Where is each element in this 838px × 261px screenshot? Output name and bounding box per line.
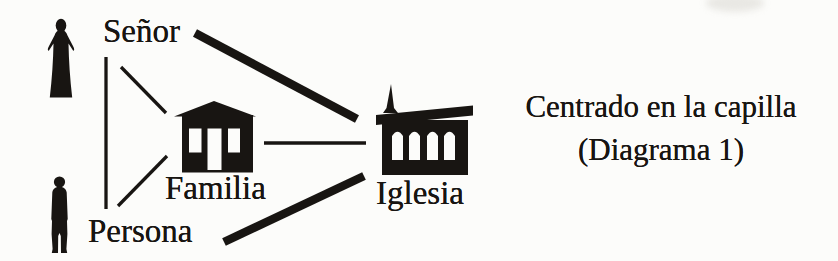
edge-persona-familia (118, 156, 167, 206)
standing-person-icon (44, 176, 75, 256)
persona-label: Persona (88, 215, 192, 248)
senor-label: Señor (103, 15, 180, 48)
caption: Centrado en la capilla (Diagrama 1) (510, 85, 812, 171)
church-icon (371, 84, 474, 178)
iglesia-label: Iglesia (376, 177, 464, 210)
familia-label: Familia (165, 172, 266, 205)
caption-subtitle: (Diagrama 1) (510, 128, 812, 171)
house-icon (172, 101, 258, 173)
diagram-centrado-en-la-capilla: Señor Familia Iglesia Persona Centrado e… (0, 0, 838, 261)
edge-senor-familia (121, 67, 166, 113)
robed-figure-icon (44, 18, 78, 101)
caption-title: Centrado en la capilla (510, 85, 812, 128)
